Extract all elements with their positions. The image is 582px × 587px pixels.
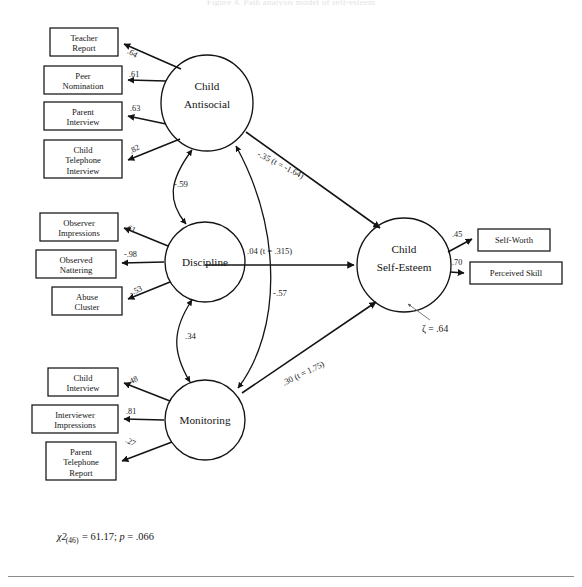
box-interviewer-impressions [32,405,118,433]
box-child-interview [48,368,118,396]
arrow-loading-parent-telephone-report [122,442,172,461]
arrow-loading-teacher-report [124,44,181,69]
arc-discipline-monitoring [177,300,192,382]
box-perceived-skill [470,262,562,284]
covariance-arcs [173,146,271,388]
box-child-telephone-interview [44,140,122,178]
latent-circles [161,55,451,460]
arrow-loading-child-telephone-interview [128,139,180,160]
box-peer-nomination [44,66,122,94]
box-parent-interview [44,102,122,130]
arrow-loading-peer-nomination [128,80,166,81]
path-diagram [0,0,582,587]
arrow-monitoring-to-selfesteem [242,302,376,393]
arrow-loading-self-worth [448,239,472,252]
arrow-loading-abuse-cluster [128,282,170,299]
indicator-boxes-selfesteem [470,229,562,284]
arrow-loading-parent-interview [128,116,166,124]
arrow-loading-perceived-skill [450,272,464,273]
structural-arrows [205,132,380,393]
circle-child-self-esteem [357,218,451,312]
box-abuse-cluster [52,287,122,315]
circle-discipline [165,222,245,302]
arc-antisocial-discipline [173,150,192,224]
figure-canvas: Figure 4. Path analysis model of self-es… [0,0,582,587]
box-parent-telephone-report [46,442,116,480]
loading-arrows-discipline [122,228,170,299]
circle-child-antisocial [161,55,253,151]
arrow-loading-child-interview [124,383,170,401]
loading-arrows-selfesteem [448,239,472,273]
box-self-worth [478,229,550,251]
circle-monitoring [165,380,245,460]
arrow-loading-observer-impressions [124,228,168,246]
indicator-boxes-antisocial [44,28,122,178]
box-observed-nattering [36,250,116,278]
indicator-boxes-monitoring [32,368,118,480]
box-teacher-report [50,28,118,56]
arrow-loading-observed-nattering [122,262,164,263]
arrow-antisocial-to-selfesteem [246,132,380,228]
arc-antisocial-monitoring [236,146,271,388]
indicator-boxes-discipline [36,213,122,315]
arrow-loading-interviewer-impressions [124,419,164,420]
bottom-divider [8,576,574,577]
box-observer-impressions [40,213,118,241]
loading-arrows-antisocial [124,44,181,160]
